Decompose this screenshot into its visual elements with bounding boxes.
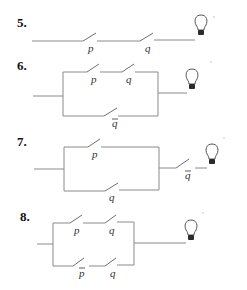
switch-q [105, 215, 116, 223]
bulb-dot [213, 16, 215, 18]
switch-label-q: q [145, 42, 151, 54]
lightbulb-icon [186, 69, 198, 89]
bulb-dot [202, 212, 204, 214]
lightbulb-icon [195, 15, 207, 35]
problem-7: 7. p q q [17, 134, 225, 203]
switch-q [105, 258, 116, 266]
switch-p [83, 33, 96, 41]
switch-label-p: p [90, 73, 97, 85]
lightbulb-icon [206, 144, 218, 164]
switch-label-q: q [109, 224, 115, 236]
switch-label-p-bar: p [78, 267, 85, 279]
problem-number: 6. [17, 58, 27, 73]
switch-label-q: q [110, 267, 116, 279]
lightbulb-icon [185, 220, 197, 240]
switch-p-bar [73, 258, 84, 266]
problem-number: 5. [17, 15, 27, 30]
switch-label-q: q [109, 191, 115, 203]
problem-6: 6. p q q [17, 58, 212, 129]
switch-q-bar [104, 108, 117, 116]
problem-number: 7. [17, 134, 27, 149]
switch-q [122, 64, 134, 72]
problem-number: 8. [20, 209, 30, 224]
switch-label-p: p [91, 148, 98, 160]
switch-q [105, 183, 118, 191]
bulb-dot [223, 137, 225, 139]
problem-5: 5. p q [17, 15, 215, 54]
switch-p [88, 139, 100, 147]
switch-q [140, 33, 153, 41]
switch-p [70, 215, 82, 223]
switch-label-q-bar: q [185, 169, 191, 181]
switch-label-q-bar: q [112, 117, 118, 129]
switch-label-p: p [73, 224, 80, 236]
switch-p [87, 64, 99, 72]
switch-label-p: p [87, 42, 94, 54]
problem-8: 8. p q p q [20, 209, 204, 279]
switch-q-bar [176, 159, 189, 168]
bulb-dot [210, 61, 212, 63]
switch-label-q: q [126, 73, 132, 85]
circuit-diagrams: 5. p q 6. p q q 7. [0, 0, 247, 290]
